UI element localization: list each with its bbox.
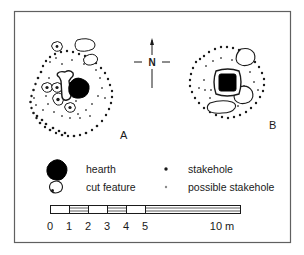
north-arrow-label: N [149,57,156,68]
hearth-b-group [214,69,241,96]
scale-tick-label-5: 5 [142,220,148,232]
site-plan-figure: A [0,0,304,255]
structure-a-label: A [120,129,128,141]
scale-bar-end-label: 10 m [210,220,234,232]
legend-label-cut-feature: cut feature [86,181,136,193]
scale-tick-label-0: 0 [47,220,53,232]
legend-hearth-icon [47,160,67,180]
scale-tick-label-2: 2 [85,220,91,232]
legend-label-hearth: hearth [86,163,116,175]
site-plan-canvas: A [0,0,304,255]
hearth-a [69,78,89,98]
legend-label-stakehole: stakehole [188,163,233,175]
legend-possible-stakehole-icon [165,186,167,188]
scale-tick-label-3: 3 [104,220,110,232]
structure-b-label: B [269,119,276,131]
legend-label-possible-stakehole: possible stakehole [188,181,275,193]
hearth-b [219,74,236,91]
scale-tick-label-1: 1 [66,220,72,232]
legend-stakehole-icon [164,167,167,170]
scale-tick-label-4: 4 [123,220,129,232]
